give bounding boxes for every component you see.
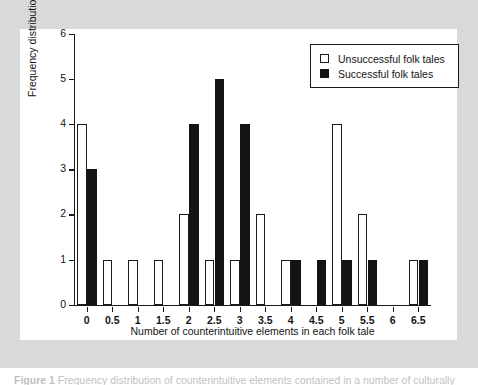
bar-successful-2.5 [215, 79, 225, 305]
x-tick-mark [418, 307, 419, 312]
x-tick-mark [214, 307, 215, 312]
x-tick-mark [240, 307, 241, 312]
figure-mat: Frequency distribution 0123456 00.511.52… [0, 0, 478, 368]
y-tick-label: 3 [60, 162, 66, 174]
bar-unsuccessful-3.5 [256, 214, 266, 304]
y-tick-mark [69, 214, 74, 215]
x-axis-title: Number of counterintuitive elements in e… [74, 325, 431, 337]
bar-unsuccessful-4 [281, 260, 291, 305]
bar-unsuccessful-0.5 [103, 260, 113, 305]
y-tick-label: 5 [60, 72, 66, 84]
y-tick-mark [69, 124, 74, 125]
bar-unsuccessful-6.5 [409, 260, 419, 305]
hollow-square-icon [320, 54, 329, 63]
bar-successful-4.5 [317, 260, 327, 305]
y-tick-label: 1 [60, 253, 66, 265]
legend-entry-successful: Successful folk tales [320, 66, 445, 81]
y-tick-mark [69, 260, 74, 261]
x-axis-line [74, 305, 431, 306]
y-axis-line [74, 34, 75, 306]
x-tick-mark [265, 307, 266, 312]
x-tick-mark [393, 307, 394, 312]
y-tick-label: 6 [60, 27, 66, 39]
x-tick-mark [367, 307, 368, 312]
y-tick-mark [69, 305, 74, 306]
bar-unsuccessful-2 [179, 214, 189, 304]
y-tick-mark [69, 34, 74, 35]
bar-successful-4 [291, 260, 301, 305]
bar-successful-0 [87, 169, 97, 304]
y-tick-mark [69, 169, 74, 170]
figure-caption: Figure 1 Frequency distribution of count… [0, 370, 478, 385]
bar-successful-5 [342, 260, 352, 305]
y-tick-label: 4 [60, 117, 66, 129]
x-tick-mark [342, 307, 343, 312]
chart-legend: Unsuccessful folk tales Successful folk … [310, 44, 459, 88]
chart-card: Frequency distribution 0123456 00.511.52… [20, 29, 457, 340]
bar-successful-2 [189, 124, 199, 304]
bar-successful-3 [240, 124, 250, 304]
plot-area: 0123456 00.511.522.533.544.555.566.5 Uns… [74, 34, 431, 306]
figure-caption-label: Figure 1 [14, 374, 55, 385]
bar-unsuccessful-1 [128, 260, 138, 305]
x-tick-mark [87, 307, 88, 312]
legend-label-successful: Successful folk tales [338, 68, 433, 80]
x-tick-mark [163, 307, 164, 312]
bar-successful-5.5 [368, 260, 378, 305]
bar-unsuccessful-0 [77, 124, 87, 304]
legend-label-unsuccessful: Unsuccessful folk tales [338, 53, 445, 65]
bar-unsuccessful-2.5 [205, 260, 215, 305]
bar-unsuccessful-1.5 [154, 260, 164, 305]
filled-square-icon [320, 69, 329, 78]
x-tick-mark [291, 307, 292, 312]
figure-caption-body: Frequency distribution of counterintuiti… [58, 374, 455, 385]
x-tick-mark [189, 307, 190, 312]
x-tick-mark [112, 307, 113, 312]
bar-successful-6.5 [419, 260, 429, 305]
y-tick-mark [69, 79, 74, 80]
bar-unsuccessful-5.5 [358, 214, 368, 304]
bar-unsuccessful-5 [332, 124, 342, 304]
y-axis-title: Frequency distribution [26, 0, 38, 97]
bar-unsuccessful-3 [230, 260, 240, 305]
y-tick-label: 2 [60, 207, 66, 219]
legend-entry-unsuccessful: Unsuccessful folk tales [320, 51, 445, 66]
x-tick-mark [316, 307, 317, 312]
figure-caption-text: Figure 1 Frequency distribution of count… [14, 374, 478, 385]
x-tick-mark [138, 307, 139, 312]
y-tick-label: 0 [60, 298, 66, 310]
